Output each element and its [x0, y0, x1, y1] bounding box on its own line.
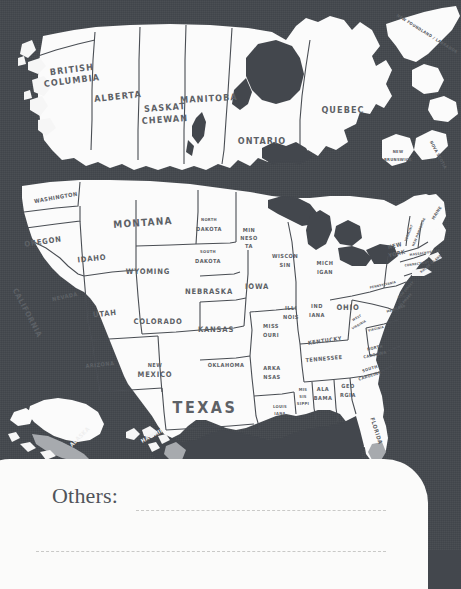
others-write-line-2[interactable]: [36, 551, 386, 552]
label-arizona: ARIZONA: [85, 360, 115, 369]
label-new-mexico: NEW: [148, 362, 163, 368]
label-iowa: IOWA: [245, 282, 269, 291]
label-alabama-2: BAMA: [314, 395, 333, 401]
usa-landmass[interactable]: [8, 180, 446, 462]
label-nebraska: NEBRASKA: [185, 287, 233, 296]
label-colorado: COLORADO: [133, 317, 182, 326]
label-wyoming: WYOMING: [126, 267, 170, 276]
label-new-brunswick-2: BRUNSWICK: [384, 157, 412, 162]
label-mississippi-2: SIS: [299, 394, 307, 399]
others-write-line-1[interactable]: [136, 510, 386, 511]
label-north-dakota: NORTH: [201, 217, 217, 222]
label-california: CALIFORNIA: [11, 287, 45, 339]
label-mississippi-3: SIPPI: [297, 401, 310, 406]
label-missouri-2: OURI: [263, 332, 279, 338]
label-new-mexico-2: MEXICO: [138, 370, 173, 379]
label-kansas: KANSAS: [198, 325, 234, 334]
others-label: Others:: [52, 483, 118, 509]
label-minnesota-3: TA: [245, 243, 253, 249]
label-arkansas-2: NSAS: [263, 374, 280, 380]
label-south-dakota: SOUTH: [200, 249, 216, 254]
label-alabama: ALA: [317, 386, 330, 392]
label-indiana-2: IANA: [309, 312, 325, 318]
others-notes-card[interactable]: Others:: [0, 459, 428, 589]
label-ontario: ONTARIO: [238, 136, 287, 146]
label-north-dakota-2: DAKOTA: [196, 226, 222, 232]
label-georgia: GEO: [341, 383, 355, 389]
label-louisiana-2: IANA: [274, 411, 285, 416]
label-minnesota-2: NESO: [240, 235, 258, 241]
label-nevada: NEVADA: [51, 291, 78, 302]
label-michigan: MICH: [317, 260, 334, 266]
label-georgia-2: RGIA: [340, 392, 356, 398]
label-minnesota: MIN: [243, 227, 256, 233]
label-south-dakota-2: DAKOTA: [195, 258, 221, 264]
label-indiana: IND: [311, 303, 323, 309]
label-quebec: QUEBEC: [321, 105, 364, 115]
label-new-brunswick: NEW: [393, 149, 404, 154]
label-ohio: OHIO: [336, 303, 359, 312]
label-missouri: MISS: [263, 323, 279, 329]
label-louisiana: LOUIS: [273, 404, 287, 409]
label-michigan-2: IGAN: [317, 269, 333, 275]
label-wisconsin-2: SIN: [279, 262, 290, 268]
label-texas: TEXAS: [173, 398, 238, 417]
label-mississippi: MIS: [299, 387, 308, 392]
label-arkansas: ARKA: [263, 365, 281, 371]
notes-card-inner: Others:: [0, 459, 428, 589]
label-wisconsin: WISCON: [272, 253, 298, 259]
label-illinois: ILLI: [285, 305, 297, 311]
label-illinois-2: NOIS: [283, 314, 299, 320]
label-oklahoma: OKLAHOMA: [208, 362, 245, 368]
